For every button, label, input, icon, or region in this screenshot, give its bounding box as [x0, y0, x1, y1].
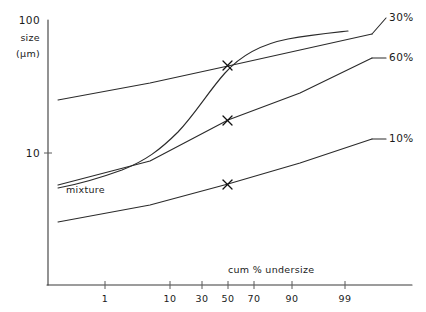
x-tick-label-30: 30 [195, 293, 208, 304]
data-point-markers [223, 61, 232, 189]
y-axis-title-units: (µm) [16, 48, 40, 59]
series-line-10pct [58, 139, 372, 222]
x-tick-labels: 1 10 30 50 70 90 99 [102, 293, 352, 304]
leader-30pct [372, 18, 386, 34]
series-label-60pct: 60% [389, 51, 414, 63]
series-line-60pct [58, 58, 372, 185]
series-label-30pct: 30% [389, 11, 414, 23]
series-curve-mixture [58, 31, 348, 188]
series-label-leaders [372, 18, 386, 139]
series-line-30pct [58, 34, 372, 100]
chart-figure: 1 10 30 50 70 90 99 100 size (µm) 10 cum… [0, 0, 426, 312]
y-tick-label-10: 10 [26, 147, 40, 159]
y-axis-title-name: size [20, 32, 40, 43]
y-tick-label-100: 100 [19, 14, 40, 26]
series-labels: 30% 60% 10% [389, 11, 414, 144]
marker-x-60pct [223, 116, 232, 125]
series-label-10pct: 10% [389, 132, 414, 144]
x-tick-label-1: 1 [102, 293, 109, 304]
x-axis-title: cum % undersize [228, 264, 314, 275]
log-probability-plot: 1 10 30 50 70 90 99 100 size (µm) 10 cum… [0, 0, 426, 312]
x-tick-label-10: 10 [163, 293, 176, 304]
axis-group [44, 20, 412, 285]
annotation-mixture: mixture [66, 184, 105, 195]
x-tick-label-99: 99 [338, 293, 351, 304]
x-tick-label-70: 70 [247, 293, 260, 304]
x-tick-label-90: 90 [285, 293, 298, 304]
x-tick-label-50: 50 [221, 293, 234, 304]
y-axis-labels: 100 size (µm) 10 [16, 14, 40, 159]
series-curves [58, 31, 372, 222]
